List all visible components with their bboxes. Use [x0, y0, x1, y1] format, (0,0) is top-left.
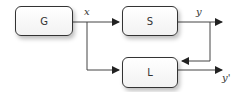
signal-x-label: x	[84, 6, 90, 17]
signal-y-prime-label: y'	[222, 72, 230, 83]
block-s-label: S	[147, 16, 153, 27]
signal-y-label: y	[196, 6, 202, 17]
block-l: L	[122, 57, 178, 88]
block-s: S	[122, 6, 178, 36]
block-l-label: L	[147, 67, 153, 78]
block-g: G	[15, 6, 73, 36]
edge-y-feedback-to-l	[182, 22, 210, 61]
block-g-label: G	[40, 16, 48, 27]
edge-x-to-l	[87, 22, 119, 70]
